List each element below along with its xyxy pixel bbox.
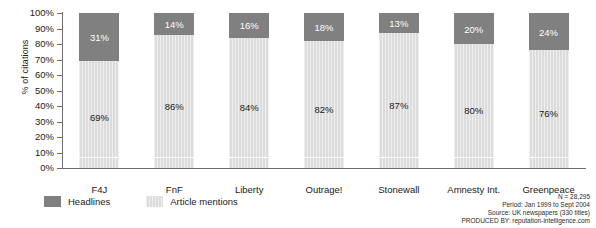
footnote-line: PRODUCED BY: reputation-intelligence.com	[461, 217, 590, 225]
bar-label-headlines: 31%	[79, 32, 119, 43]
bar-label-article-mentions: 80%	[454, 105, 494, 116]
bar-label-headlines: 18%	[304, 22, 344, 33]
y-axis-tick-label: 60%	[35, 69, 54, 80]
bar-label-headlines: 14%	[154, 19, 194, 30]
bar-label-headlines: 24%	[529, 27, 569, 38]
bar-label-article-mentions: 84%	[229, 102, 269, 113]
bar-segment-headlines[interactable]: 20%	[454, 13, 494, 44]
footnote-line: Source: UK newspapers (330 titles)	[461, 209, 590, 217]
bar-segment-headlines[interactable]: 18%	[304, 13, 344, 41]
y-axis-tick-label: 50%	[35, 85, 54, 96]
y-axis-tick-label: 80%	[35, 38, 54, 49]
bar-inner-divider	[304, 157, 344, 158]
bar-segment-headlines[interactable]: 16%	[229, 13, 269, 38]
bar-stack: 69%31%	[79, 13, 119, 168]
bar-group[interactable]: 69%31%	[79, 13, 119, 168]
bar-segment-headlines[interactable]: 14%	[154, 13, 194, 35]
legend-item[interactable]: Headlines	[44, 196, 110, 207]
legend-item-label: Headlines	[68, 196, 110, 207]
bars-layer: 69%31%86%14%84%16%82%18%87%13%80%20%76%2…	[62, 12, 586, 169]
bar-segment-article-mentions[interactable]: 87%	[379, 33, 419, 168]
bar-inner-divider	[154, 157, 194, 158]
bar-stack: 76%24%	[529, 13, 569, 168]
legend-item[interactable]: Article mentions	[146, 196, 238, 207]
footnote-line: Period: Jan 1999 to Sept 2004	[461, 201, 590, 209]
y-axis-tick-label: 30%	[35, 116, 54, 127]
bar-inner-divider	[529, 157, 569, 158]
y-axis-title: % of citations	[20, 12, 30, 122]
bar-inner-divider	[379, 157, 419, 158]
bar-label-headlines: 20%	[454, 24, 494, 35]
bar-inner-divider	[454, 157, 494, 158]
bar-label-article-mentions: 87%	[379, 100, 419, 111]
bar-inner-divider	[229, 157, 269, 158]
bar-segment-headlines[interactable]: 31%	[79, 13, 119, 61]
bar-label-article-mentions: 69%	[79, 112, 119, 123]
bar-stack: 82%18%	[304, 13, 344, 168]
bar-group[interactable]: 76%24%	[529, 13, 569, 168]
bar-inner-divider	[79, 157, 119, 158]
bar-group[interactable]: 86%14%	[154, 13, 194, 168]
y-axis-tick-label: 20%	[35, 131, 54, 142]
y-axis-tick-label: 0%	[40, 162, 54, 173]
bar-stack: 87%13%	[379, 13, 419, 168]
bar-label-article-mentions: 86%	[154, 101, 194, 112]
plot-area: 100%90%80%70%60%50%40%30%20%10%0% 69%31%…	[62, 12, 586, 169]
y-axis-tick-label: 90%	[35, 23, 54, 34]
bar-segment-article-mentions[interactable]: 86%	[154, 35, 194, 168]
bar-segment-article-mentions[interactable]: 76%	[529, 50, 569, 168]
stacked-bar-chart: % of citations 100%90%80%70%60%50%40%30%…	[0, 0, 596, 228]
bar-label-headlines: 16%	[229, 20, 269, 31]
article-mentions-swatch	[146, 196, 163, 207]
bar-segment-article-mentions[interactable]: 80%	[454, 44, 494, 168]
y-axis-tick-label: 10%	[35, 147, 54, 158]
bar-stack: 80%20%	[454, 13, 494, 168]
bar-stack: 86%14%	[154, 13, 194, 168]
bar-segment-headlines[interactable]: 13%	[379, 13, 419, 33]
bar-group[interactable]: 80%20%	[454, 13, 494, 168]
bar-label-article-mentions: 82%	[304, 104, 344, 115]
y-axis-tick-label: 70%	[35, 54, 54, 65]
chart-footnote: N = 28,295Period: Jan 1999 to Sept 2004S…	[461, 193, 590, 225]
y-axis-tick-label: 100%	[30, 7, 54, 18]
footnote-line: N = 28,295	[461, 193, 590, 201]
bar-group[interactable]: 87%13%	[379, 13, 419, 168]
y-axis-tick-label: 40%	[35, 100, 54, 111]
bar-label-article-mentions: 76%	[529, 108, 569, 119]
headlines-swatch	[44, 196, 61, 207]
bar-group[interactable]: 84%16%	[229, 13, 269, 168]
bar-label-headlines: 13%	[379, 18, 419, 29]
bar-segment-article-mentions[interactable]: 84%	[229, 38, 269, 168]
bar-segment-article-mentions[interactable]: 69%	[79, 61, 119, 168]
bar-stack: 84%16%	[229, 13, 269, 168]
chart-legend: HeadlinesArticle mentions	[44, 196, 238, 207]
bar-group[interactable]: 82%18%	[304, 13, 344, 168]
legend-item-label: Article mentions	[170, 196, 238, 207]
bar-segment-headlines[interactable]: 24%	[529, 13, 569, 50]
bar-segment-article-mentions[interactable]: 82%	[304, 41, 344, 168]
